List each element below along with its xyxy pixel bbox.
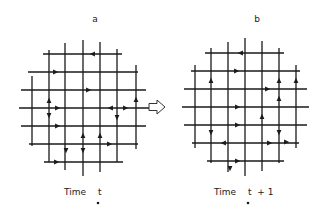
particle-right-arrow-icon <box>86 88 91 93</box>
particle-down-arrow-icon <box>47 113 52 118</box>
particle-right-arrow-icon <box>234 69 239 74</box>
particle-left-arrow-icon <box>108 106 113 111</box>
particle-up-arrow-icon <box>277 96 282 101</box>
panel-a-time-t: a Time t <box>19 14 149 204</box>
panel-a-title: a <box>92 14 98 24</box>
caption-dot-icon <box>247 202 250 205</box>
particle-up-arrow-icon <box>98 133 103 138</box>
particle-right-arrow-icon <box>55 106 60 111</box>
particle-down-arrow-icon <box>115 115 120 120</box>
particle-left-arrow-icon <box>90 52 95 57</box>
particle-down-arrow-icon <box>64 148 69 153</box>
panel-a-caption: Time t <box>63 187 102 197</box>
particle-up-arrow-icon <box>260 114 265 119</box>
particle-right-arrow-icon <box>53 70 58 75</box>
panel-b-time-t-plus-1: b Time t + 1 <box>182 14 309 204</box>
caption-time-variable: t <box>248 187 252 197</box>
caption-time-offset: + 1 <box>257 187 273 197</box>
panel-b-title: b <box>254 14 260 24</box>
particle-up-arrow-icon <box>134 97 139 102</box>
particle-up-arrow-icon <box>209 78 214 83</box>
particle-up-arrow-icon <box>81 133 86 138</box>
particle-left-arrow-icon <box>238 51 243 56</box>
particle-right-arrow-icon <box>123 106 128 111</box>
caption-time-word: Time <box>213 187 236 197</box>
particle-right-arrow-icon <box>235 105 240 110</box>
particle-up-arrow-icon <box>277 78 282 83</box>
caption-time-variable: t <box>98 187 102 197</box>
particle-right-arrow-icon <box>235 123 240 128</box>
particle-up-arrow-icon <box>294 78 299 83</box>
particle-left-arrow-icon <box>221 141 226 146</box>
lattice-gas-diagram: a Time t b Time t + 1 <box>0 0 324 213</box>
particle-right-arrow-icon <box>235 159 240 164</box>
particle-down-arrow-icon <box>81 148 86 153</box>
caption-dot-icon <box>97 202 100 205</box>
particle-down-arrow-icon <box>277 130 282 135</box>
panel-b-particles <box>209 51 299 172</box>
panel-b-grid <box>182 38 309 176</box>
particle-right-arrow-icon <box>107 142 112 147</box>
panel-b-caption: Time t + 1 <box>213 187 273 197</box>
particle-right-arrow-icon <box>267 141 272 146</box>
particle-right-arrow-icon <box>54 160 59 165</box>
panel-a-grid <box>19 40 149 176</box>
particle-right-arrow-icon <box>265 87 270 92</box>
particle-right-arrow-icon <box>284 140 289 145</box>
hollow-right-arrow-icon <box>149 100 165 114</box>
particle-up-arrow-icon <box>47 98 52 103</box>
particle-down-arrow-icon <box>209 130 214 135</box>
particle-right-arrow-icon <box>55 124 60 129</box>
caption-time-word: Time <box>63 187 86 197</box>
